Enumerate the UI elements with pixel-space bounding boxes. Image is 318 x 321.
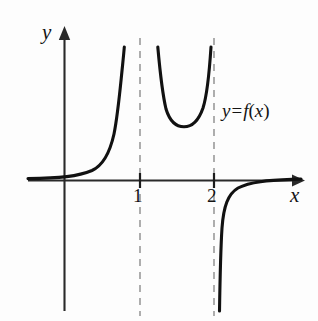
curve-branch-left [28, 47, 124, 179]
x-tick-label-1: 1 [133, 186, 143, 205]
function-graph-figure: y x 1 2 y=f(x) [0, 0, 318, 321]
function-label-equals: = [230, 100, 243, 121]
curve-branch-middle [158, 47, 211, 127]
y-axis-label: y [42, 22, 51, 43]
function-equation-label: y=f(x) [222, 101, 270, 120]
x-tick-label-2: 2 [207, 186, 217, 205]
function-label-x: x [255, 100, 263, 121]
y-axis-arrowhead [59, 26, 70, 40]
curve-branch-right [220, 179, 302, 311]
graph-canvas [0, 0, 318, 321]
x-axis-label: x [290, 185, 299, 206]
function-label-close-paren: ) [263, 100, 269, 121]
